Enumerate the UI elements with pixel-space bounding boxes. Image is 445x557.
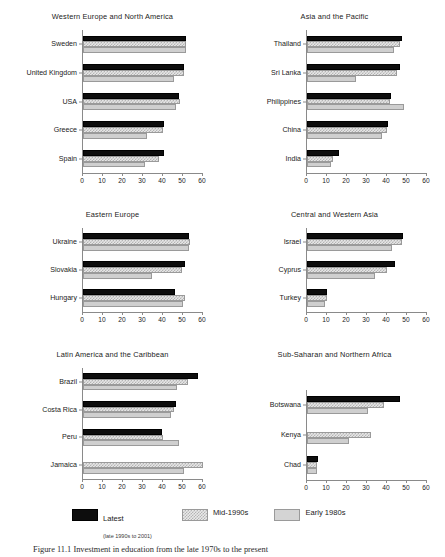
category-label: Ukraine: [5, 238, 77, 246]
bar-early-1980s: [83, 273, 152, 279]
x-axis-tick-label: 40: [158, 483, 165, 490]
category-label: Greece: [5, 126, 77, 134]
x-axis-tick: [202, 312, 203, 315]
x-axis-tick: [122, 479, 123, 482]
x-axis-tick-label: 0: [80, 177, 84, 184]
category-tick: [303, 242, 306, 243]
x-axis-tick: [82, 479, 83, 482]
category-tick: [303, 465, 306, 466]
x-axis-tick-label: 30: [138, 316, 145, 323]
x-axis-tick-label: 10: [322, 484, 329, 491]
x-axis-tick: [82, 173, 83, 176]
bar-early-1980s: [83, 440, 179, 446]
bar-early-1980s: [307, 76, 356, 82]
legend-swatch-early1980s: [274, 509, 300, 521]
category-label: Botswana: [229, 401, 301, 409]
bar-early-1980s: [307, 301, 325, 307]
chart-grid: Western Europe and North America01020304…: [0, 0, 445, 505]
x-axis-tick-label: 60: [422, 316, 429, 323]
x-axis-tick: [326, 312, 327, 315]
x-axis-tick: [162, 479, 163, 482]
x-axis-tick: [366, 480, 367, 483]
bar-early-1980s: [307, 133, 382, 139]
x-axis-tick-label: 30: [138, 483, 145, 490]
x-axis-tick-label: 40: [382, 316, 389, 323]
panel-title: Eastern Europe: [2, 210, 223, 219]
x-axis-tick-label: 0: [304, 316, 308, 323]
x-axis-tick: [142, 479, 143, 482]
x-axis-tick: [162, 173, 163, 176]
x-axis-tick: [326, 173, 327, 176]
x-axis-tick: [386, 312, 387, 315]
bar-early-1980s: [307, 438, 349, 444]
x-axis-tick: [182, 312, 183, 315]
bar-early-1980s: [83, 385, 177, 391]
category-label: Sweden: [5, 40, 77, 48]
x-axis-tick: [162, 312, 163, 315]
category-label: Slovakia: [5, 266, 77, 274]
x-axis-tick: [202, 173, 203, 176]
x-axis-tick: [346, 173, 347, 176]
category-tick: [79, 270, 82, 271]
x-axis-tick-label: 0: [80, 316, 84, 323]
x-axis-tick: [142, 173, 143, 176]
category-label: Spain: [5, 155, 77, 163]
x-axis-tick-label: 20: [118, 483, 125, 490]
x-axis-tick-label: 50: [178, 316, 185, 323]
category-tick: [79, 101, 82, 102]
category-tick: [303, 435, 306, 436]
x-axis-tick: [202, 479, 203, 482]
legend-sublabel-latest: (late 1990s to 2001): [103, 533, 152, 539]
x-axis-tick-label: 10: [322, 316, 329, 323]
x-axis-tick-label: 10: [98, 483, 105, 490]
legend-item-early1980s: Early 1980s: [274, 508, 345, 521]
bar-early-1980s: [307, 408, 368, 414]
bar-early-1980s: [307, 245, 392, 251]
x-axis-tick: [306, 312, 307, 315]
x-axis-tick: [306, 480, 307, 483]
x-axis-tick: [326, 480, 327, 483]
x-axis-tick-label: 50: [178, 483, 185, 490]
legend-label-early1980s: Early 1980s: [305, 508, 345, 517]
plot-area: 0102030405060: [306, 228, 426, 312]
category-label: Chad: [229, 461, 301, 469]
bar-early-1980s: [307, 47, 394, 53]
x-axis-tick: [122, 312, 123, 315]
category-label: Peru: [5, 433, 77, 441]
x-axis-tick: [366, 312, 367, 315]
category-label: Jamaica: [5, 461, 77, 469]
x-axis-tick-label: 40: [382, 177, 389, 184]
x-axis-tick-label: 20: [342, 177, 349, 184]
panel-title: Western Europe and North America: [2, 12, 223, 21]
x-axis-tick-label: 30: [362, 484, 369, 491]
category-tick: [79, 158, 82, 159]
x-axis-tick: [366, 173, 367, 176]
category-label: Costa Rica: [5, 406, 77, 414]
legend-swatch-mid1990s: [182, 509, 208, 521]
legend-label-latest: Latest: [103, 514, 124, 523]
category-tick: [303, 130, 306, 131]
chart-legend: Latest (late 1990s to 2001) Mid-1990s Ea…: [0, 508, 445, 534]
bar-early-1980s: [83, 104, 176, 110]
x-axis-tick: [406, 312, 407, 315]
x-axis-tick-label: 30: [362, 177, 369, 184]
bar-early-1980s: [83, 76, 174, 82]
category-tick: [79, 437, 82, 438]
x-axis-tick-label: 60: [198, 316, 205, 323]
bar-early-1980s: [307, 162, 331, 168]
x-axis-tick-label: 30: [138, 177, 145, 184]
category-label: USA: [5, 98, 77, 106]
x-axis-tick-label: 60: [198, 177, 205, 184]
x-axis-tick: [426, 312, 427, 315]
category-label: Thailand: [229, 40, 301, 48]
panel-title: Central and Western Asia: [224, 210, 445, 219]
category-label: Philippines: [229, 98, 301, 106]
x-axis-tick: [182, 479, 183, 482]
bar-early-1980s: [307, 468, 317, 474]
category-tick: [79, 242, 82, 243]
category-tick: [303, 101, 306, 102]
category-label: Israel: [229, 238, 301, 246]
x-axis-tick-label: 60: [422, 484, 429, 491]
x-axis-tick: [102, 173, 103, 176]
category-tick: [79, 72, 82, 73]
